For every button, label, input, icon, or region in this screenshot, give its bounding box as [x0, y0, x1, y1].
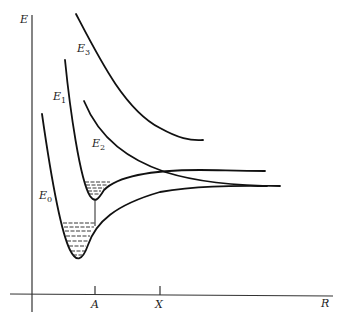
- label-e3: E3: [76, 42, 90, 57]
- label-e2: E2: [91, 137, 105, 152]
- curve-e0: [42, 114, 267, 258]
- curve-e2: [84, 101, 280, 186]
- x-axis-label: R: [320, 297, 329, 310]
- tick-label-x: X: [154, 298, 164, 311]
- potential-energy-diagram: E R A X E3 E1 E2 E0: [0, 0, 348, 328]
- y-axis-label: E: [19, 13, 28, 26]
- tick-label-a: A: [90, 298, 99, 311]
- x-axis: [10, 294, 333, 296]
- label-e0: E0: [38, 189, 52, 204]
- label-e1: E1: [52, 90, 66, 105]
